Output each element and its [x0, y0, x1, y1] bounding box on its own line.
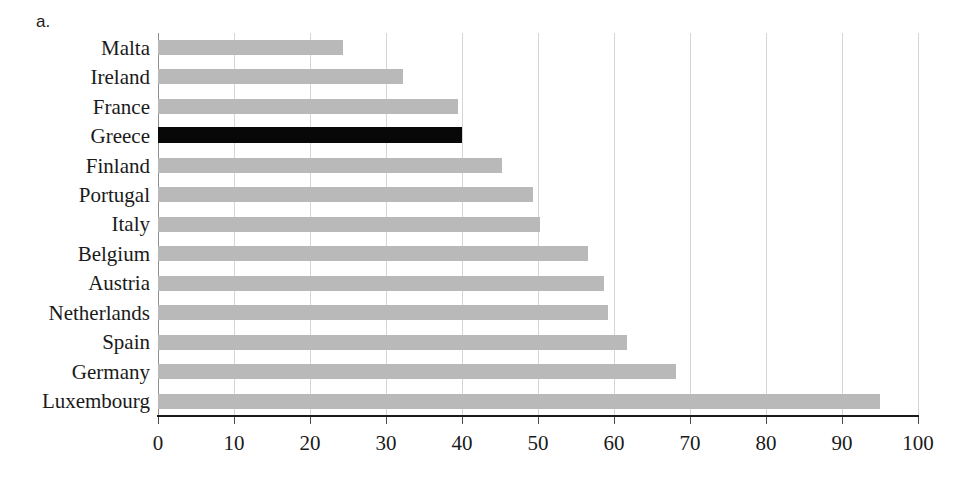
- bar-row: Italy: [158, 210, 918, 239]
- plot-area: MaltaIrelandFranceGreeceFinlandPortugalI…: [158, 33, 918, 416]
- bar-row: Portugal: [158, 180, 918, 209]
- category-label-germany: Germany: [6, 362, 150, 383]
- bar-greece[interactable]: [158, 127, 462, 143]
- bar-row: Luxembourg: [158, 387, 918, 416]
- category-label-france: France: [6, 97, 150, 118]
- x-tick-40: [462, 417, 463, 424]
- bar-portugal[interactable]: [158, 187, 533, 202]
- x-tick-60: [614, 417, 615, 424]
- bar-finland[interactable]: [158, 158, 502, 173]
- category-label-luxembourg: Luxembourg: [6, 391, 150, 412]
- bar-germany[interactable]: [158, 364, 676, 379]
- category-label-netherlands: Netherlands: [6, 303, 150, 324]
- bar-row: Malta: [158, 33, 918, 62]
- bar-belgium[interactable]: [158, 246, 588, 261]
- bar-spain[interactable]: [158, 335, 627, 350]
- x-tick-label-30: 30: [356, 433, 416, 454]
- category-label-portugal: Portugal: [6, 185, 150, 206]
- x-tick-label-10: 10: [204, 433, 264, 454]
- bar-row: Spain: [158, 328, 918, 357]
- x-tick-100: [918, 417, 919, 424]
- category-label-spain: Spain: [6, 332, 150, 353]
- x-tick-20: [310, 417, 311, 424]
- bar-luxembourg[interactable]: [158, 394, 880, 409]
- gridline-100: [918, 33, 919, 416]
- bar-row: Austria: [158, 269, 918, 298]
- category-label-belgium: Belgium: [6, 244, 150, 265]
- bar-row: Belgium: [158, 239, 918, 268]
- x-tick-label-20: 20: [280, 433, 340, 454]
- x-tick-label-90: 90: [812, 433, 872, 454]
- x-tick-10: [234, 417, 235, 424]
- category-label-finland: Finland: [6, 156, 150, 177]
- x-tick-label-60: 60: [584, 433, 644, 454]
- bar-netherlands[interactable]: [158, 305, 608, 320]
- x-tick-label-0: 0: [128, 433, 188, 454]
- x-tick-0: [158, 417, 159, 424]
- x-tick-label-40: 40: [432, 433, 492, 454]
- x-tick-50: [538, 417, 539, 424]
- x-tick-80: [766, 417, 767, 424]
- bar-row: Netherlands: [158, 298, 918, 327]
- bar-ireland[interactable]: [158, 69, 403, 84]
- bar-austria[interactable]: [158, 276, 604, 291]
- figure-panel-a: a. MaltaIrelandFranceGreeceFinlandPortug…: [0, 0, 964, 489]
- category-label-greece: Greece: [6, 126, 150, 147]
- bar-row: Germany: [158, 357, 918, 386]
- category-label-italy: Italy: [6, 214, 150, 235]
- x-tick-label-100: 100: [888, 433, 948, 454]
- x-tick-label-70: 70: [660, 433, 720, 454]
- bar-row: Ireland: [158, 62, 918, 91]
- category-label-malta: Malta: [6, 38, 150, 59]
- x-tick-label-50: 50: [508, 433, 568, 454]
- category-label-austria: Austria: [6, 273, 150, 294]
- x-tick-30: [386, 417, 387, 424]
- panel-letter-label: a.: [36, 13, 50, 30]
- bar-malta[interactable]: [158, 40, 343, 55]
- x-tick-label-80: 80: [736, 433, 796, 454]
- bar-row: Greece: [158, 121, 918, 150]
- category-label-ireland: Ireland: [6, 67, 150, 88]
- x-tick-90: [842, 417, 843, 424]
- bar-italy[interactable]: [158, 217, 540, 232]
- bar-row: France: [158, 92, 918, 121]
- bar-france[interactable]: [158, 99, 458, 114]
- x-tick-70: [690, 417, 691, 424]
- bar-row: Finland: [158, 151, 918, 180]
